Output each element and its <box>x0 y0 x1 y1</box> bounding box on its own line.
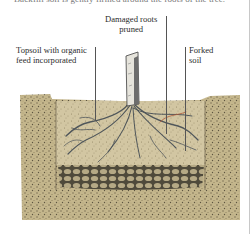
leader-line-topsoil <box>95 47 96 121</box>
page-edge-divider <box>249 0 250 234</box>
label-forked-soil: Forked soil <box>189 46 213 65</box>
leader-line-damaged-roots <box>166 16 167 134</box>
label-damaged-roots-pruned: Damaged roots pruned <box>105 15 157 34</box>
leader-line-forked-soil <box>185 47 186 151</box>
label-line: feed incorporated <box>16 56 87 66</box>
planting-pit-illustration <box>0 0 252 234</box>
label-line: pruned <box>105 25 157 35</box>
label-topsoil-organic-feed: Topsoil with organic feed incorporated <box>16 46 87 65</box>
label-line: soil <box>189 56 213 66</box>
forked-soil-layer <box>58 165 204 190</box>
tree-trunk <box>126 52 139 106</box>
